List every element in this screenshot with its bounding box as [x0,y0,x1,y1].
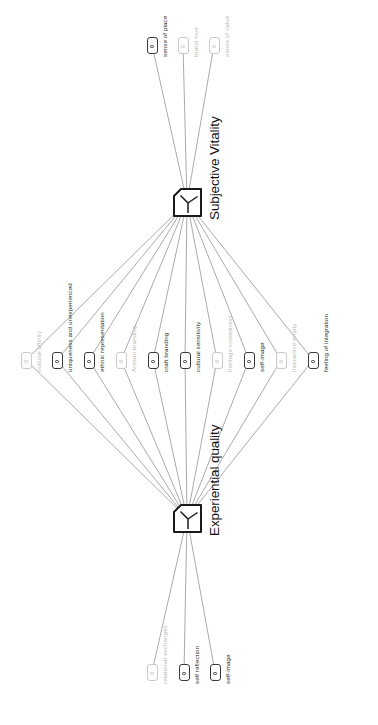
leaf-node-icon-self-reflection[interactable] [179,664,190,681]
leaf-node-icon-heritage-rootedness[interactable] [212,352,223,369]
edge-experiential-quality-to-cultural-sensitivity [185,360,187,518]
edge-subjective-vitality-to-heritage-rootedness [187,202,217,360]
leaf-label-heritage-rootedness: heritage rootedness [227,315,233,372]
leaf-label-feeling-of-integration: feeling of integration [323,314,329,372]
edge-subjective-vitality-to-cultural-sensitivity [185,202,187,360]
edge-experiential-quality-to-feeling-of-integration [187,360,313,518]
leaf-label-self-image-mid: self-image [259,342,265,372]
hub-shape-icon [172,503,203,534]
hub-label-subjective-vitality: Subjective Vitality [208,116,222,220]
leaf-label-artisan-branding: Artisan branding [131,325,137,372]
edge-subjective-vitality-to-brand-love [183,45,187,202]
edge-experiential-quality-to-relational-exchanges [152,518,187,672]
leaf-label-self-reflection: self reflection [194,646,200,684]
leaf-label-ethnic-representation: ethnic representation [99,312,105,372]
leaf-node-icon-relational-exchanges[interactable] [147,664,158,681]
leaf-label-brand-love: brand love [193,27,199,57]
leaf-label-sense-of-value: sense of value [224,16,230,57]
edge-experiential-quality-to-artisan-branding [121,360,187,518]
edge-experiential-quality-to-uniqueness-and-unexperienced [57,360,187,518]
hub-shape-icon [172,187,203,218]
hub-node-subjective-vitality[interactable] [172,187,203,218]
leaf-label-interactive-empty: interactive empty [291,324,297,372]
edge-experiential-quality-to-craft-branding [153,360,187,518]
leaf-label-cultural-affinity: cultural affinity [36,331,42,372]
leaf-node-icon-interactive-empty[interactable] [276,352,287,369]
edge-experiential-quality-to-self-reflection [184,518,187,672]
edge-experiential-quality-to-cultural-affinity [26,360,187,518]
leaf-node-icon-craft-branding[interactable] [148,352,159,369]
leaf-node-icon-ethnic-representation[interactable] [84,352,95,369]
leaf-node-icon-self-image-bottom[interactable] [210,664,221,681]
diagram-canvas: Subjective VitalityExperiential qualitys… [0,0,378,725]
leaf-node-icon-cultural-affinity[interactable] [21,352,32,369]
leaf-label-craft-branding: craft branding [163,333,169,372]
leaf-label-uniqueness-and-unexperienced: uniqueness and unexperienced [67,283,73,372]
edge-experiential-quality-to-ethnic-representation [89,360,187,518]
leaf-node-icon-feeling-of-integration[interactable] [308,352,319,369]
edge-experiential-quality-to-interactive-empty [187,360,281,518]
edge-subjective-vitality-to-craft-branding [153,202,187,360]
leaf-node-icon-artisan-branding[interactable] [116,352,127,369]
leaf-node-icon-self-image-mid[interactable] [244,352,255,369]
leaf-node-icon-cultural-sensitivity[interactable] [180,352,191,369]
leaf-node-icon-brand-love[interactable] [178,37,189,54]
leaf-label-relational-exchanges: relational exchanges [162,625,168,684]
hub-node-experiential-quality[interactable] [172,503,203,534]
leaf-node-icon-uniqueness-and-unexperienced[interactable] [52,352,63,369]
edge-subjective-vitality-to-sense-of-place [152,45,187,202]
leaf-label-sense-of-place: sense of place [162,16,168,57]
leaf-node-icon-sense-of-place[interactable] [147,37,158,54]
leaf-label-self-image-bottom: self-image [225,654,231,684]
leaf-label-cultural-sensitivity: cultural sensitivity [195,322,201,373]
hub-label-experiential-quality: Experiential quality [208,425,222,536]
edge-experiential-quality-to-self-image-bottom [187,518,215,672]
leaf-node-icon-sense-of-value[interactable] [209,37,220,54]
